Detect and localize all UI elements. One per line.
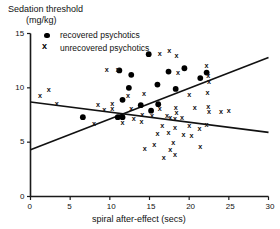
data-point-unrecovered: x <box>205 120 209 129</box>
plot-canvas: xxxxxxxxxxxxxxxxxxxxxxxxxxxxxxxxxxxxxxxx… <box>0 0 280 229</box>
x-cross-icon: x <box>42 42 47 51</box>
data-point-unrecovered: x <box>198 142 202 151</box>
data-point-unrecovered: x <box>167 128 171 137</box>
data-point-unrecovered: x <box>207 77 211 86</box>
data-point-recovered <box>138 102 144 108</box>
data-point-unrecovered: x <box>219 107 223 116</box>
data-point-recovered <box>126 85 132 91</box>
data-point-recovered <box>197 75 203 81</box>
scatter-plot-figure: Sedation threshold (mg/kg) xxxxxxxxxxxxx… <box>0 0 280 229</box>
data-point-unrecovered: x <box>110 104 114 113</box>
data-point-unrecovered: x <box>126 91 130 100</box>
data-point-unrecovered: x <box>150 111 154 120</box>
data-point-unrecovered: x <box>160 121 164 130</box>
data-point-unrecovered: x <box>105 65 109 74</box>
data-point-unrecovered: x <box>167 46 171 55</box>
x-axis-label: spiral after-effect (secs) <box>92 214 186 224</box>
x-tick-label: 25 <box>226 203 235 211</box>
data-point-unrecovered: x <box>143 144 147 153</box>
series-recovered <box>80 51 210 120</box>
x-tick-label: 5 <box>67 203 71 211</box>
data-point-unrecovered: x <box>173 150 177 159</box>
data-point-recovered <box>128 72 134 78</box>
y-tick-label: 10 <box>15 84 24 92</box>
data-point-unrecovered: x <box>129 104 133 113</box>
x-tick-label: 30 <box>266 203 275 211</box>
data-point-unrecovered: x <box>174 51 178 60</box>
data-point-unrecovered: x <box>92 119 96 128</box>
data-point-unrecovered: x <box>121 118 125 127</box>
data-point-unrecovered: x <box>205 61 209 70</box>
data-point-unrecovered: x <box>132 114 136 123</box>
x-tick-label: 15 <box>147 203 156 211</box>
legend-label-recovered: recovered psychotics <box>60 31 140 40</box>
data-point-unrecovered: x <box>173 123 177 132</box>
data-point-unrecovered: x <box>55 99 59 108</box>
data-point-unrecovered: x <box>168 145 172 154</box>
data-point-unrecovered: x <box>205 88 209 97</box>
data-point-unrecovered: x <box>102 105 106 114</box>
filled-circle-icon <box>44 33 50 39</box>
data-point-recovered <box>80 114 86 120</box>
data-point-unrecovered: x <box>207 107 211 116</box>
data-point-unrecovered: x <box>173 114 177 123</box>
data-point-unrecovered: x <box>182 130 186 139</box>
data-point-unrecovered: x <box>47 85 51 94</box>
data-point-unrecovered: x <box>193 103 197 112</box>
series-unrecovered: xxxxxxxxxxxxxxxxxxxxxxxxxxxxxxxxxxxxxxxx… <box>38 46 231 161</box>
regression-line-recovered-regression <box>31 57 269 149</box>
data-point-recovered <box>182 65 188 71</box>
data-point-unrecovered: x <box>180 113 184 122</box>
y-tick-label: 0 <box>20 193 24 201</box>
data-point-unrecovered: x <box>176 68 180 77</box>
data-point-unrecovered: x <box>227 106 231 115</box>
data-point-unrecovered: x <box>158 104 162 113</box>
data-point-unrecovered: x <box>152 140 156 149</box>
x-tick-label: 0 <box>28 203 32 211</box>
data-point-recovered <box>155 82 161 88</box>
x-tick-label: 20 <box>186 203 195 211</box>
data-point-recovered <box>120 97 126 103</box>
data-point-unrecovered: x <box>142 89 146 98</box>
data-point-unrecovered: x <box>96 100 100 109</box>
data-point-unrecovered: x <box>38 91 42 100</box>
x-tick-label: 10 <box>107 203 116 211</box>
y-tick-label: 15 <box>15 30 24 38</box>
data-point-unrecovered: x <box>116 65 120 74</box>
data-point-unrecovered: x <box>197 124 201 133</box>
legend-label-unrecovered: unrecovered psychotics <box>60 44 149 53</box>
data-point-unrecovered: x <box>158 49 162 58</box>
y-tick-label: 5 <box>20 138 24 146</box>
data-point-unrecovered: x <box>140 117 144 126</box>
data-point-unrecovered: x <box>187 121 191 130</box>
data-point-recovered <box>173 86 179 92</box>
data-point-unrecovered: x <box>155 129 159 138</box>
data-point-unrecovered: x <box>162 153 166 162</box>
data-point-recovered <box>166 69 172 75</box>
data-point-unrecovered: x <box>190 131 194 140</box>
data-point-unrecovered: x <box>187 90 191 99</box>
data-point-unrecovered: x <box>168 113 172 122</box>
